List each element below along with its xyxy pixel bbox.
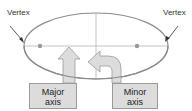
vertex-left-label: Vertex [7,9,30,17]
vertex-right-label: Vertex [163,9,186,17]
vertex-left-pointer-icon [10,26,24,43]
focus-right [135,44,139,48]
major-axis-label-line2: axis [30,97,76,107]
minor-axis-label-box: Minor axis [112,83,158,109]
focus-left [38,44,42,48]
major-axis-label-box: Major axis [29,83,77,109]
vertex-right-pointer-icon [165,26,178,42]
major-axis-label-line1: Major [30,87,76,97]
minor-axis-label-line2: axis [113,97,157,107]
minor-axis-label-line1: Minor [113,87,157,97]
